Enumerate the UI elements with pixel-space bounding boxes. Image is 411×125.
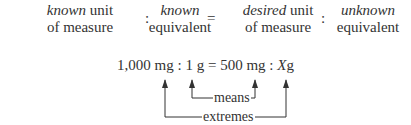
means-left-arrowhead [189, 79, 195, 88]
means-extremes-arrows [0, 0, 411, 125]
means-bracket [192, 80, 213, 98]
means-right-arrowhead [252, 79, 258, 88]
extremes-left-arrowhead [162, 79, 168, 88]
extremes-right-arrowhead [283, 79, 289, 88]
extremes-label: extremes [202, 110, 255, 124]
means-label: means [213, 91, 251, 105]
